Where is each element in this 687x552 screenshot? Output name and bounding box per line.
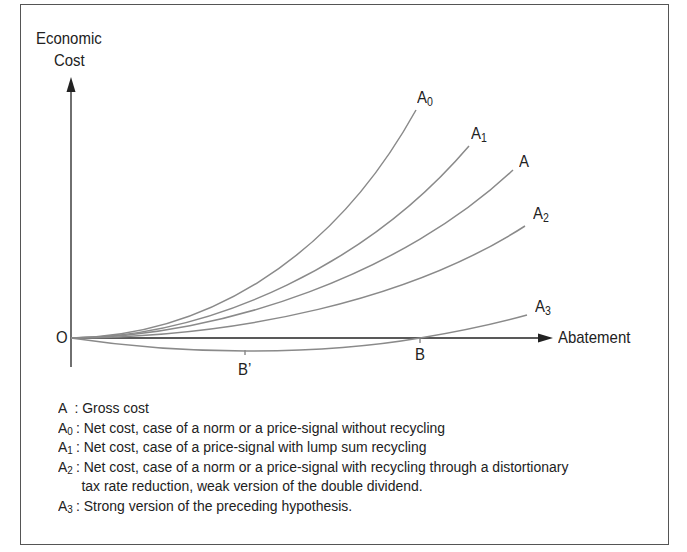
legend-text: Strong version of the preceding hypothes… [84, 497, 352, 514]
legend-text: Net cost, case of a norm or a price-sign… [84, 419, 445, 436]
legend-text: Net cost, case of a price-signal with lu… [84, 438, 427, 455]
legend-item-a: A : Gross cost [58, 398, 598, 418]
y-axis-arrow-icon [67, 77, 76, 92]
curve-label-a1: A1 [471, 125, 487, 143]
legend-item-a0: A0: Net cost, case of a norm or a price-… [58, 418, 598, 438]
legend-text: Net cost, case of a norm or a price-sign… [84, 458, 569, 475]
curve-a2 [71, 226, 525, 338]
y-axis-label-line2: Cost [54, 52, 85, 70]
point-b-label: B [415, 346, 425, 364]
origin-label: O [56, 329, 68, 347]
legend-text: tax rate reduction, weak version of the … [81, 477, 422, 494]
legend-text: Gross cost [82, 399, 149, 416]
legend-key: A3 [58, 496, 76, 515]
legend-separator: : [76, 438, 84, 455]
legend-separator: : [76, 419, 84, 436]
legend-separator: : [76, 497, 84, 514]
legend-item-a2: A2: Net cost, case of a norm or a price-… [58, 457, 598, 477]
curve-a1 [71, 146, 469, 338]
curve-label-a2: A2 [533, 205, 549, 223]
x-axis-label: Abatement [558, 329, 630, 347]
x-axis-arrow-icon [538, 334, 553, 343]
legend-item-a3: A3: Strong version of the preceding hypo… [58, 496, 598, 516]
curve-label-a: A [519, 153, 529, 171]
legend-key: A1 [58, 437, 76, 456]
curve-a [71, 170, 513, 338]
legend-key: A0 [58, 418, 76, 437]
legend: A : Gross cost A0: Net cost, case of a n… [58, 398, 658, 515]
legend-item-a2-continuation: tax rate reduction, weak version of the … [58, 476, 598, 496]
legend-separator: : [71, 399, 83, 416]
legend-key: A2 [58, 457, 76, 476]
point-b-prime-label: B’ [238, 361, 251, 379]
curve-label-a3: A3 [535, 298, 551, 316]
legend-item-a1: A1: Net cost, case of a price-signal wit… [58, 437, 598, 457]
y-axis-label-line1: Economic [36, 30, 102, 48]
legend-separator: : [76, 458, 84, 475]
curve-label-a0: A0 [417, 89, 433, 107]
